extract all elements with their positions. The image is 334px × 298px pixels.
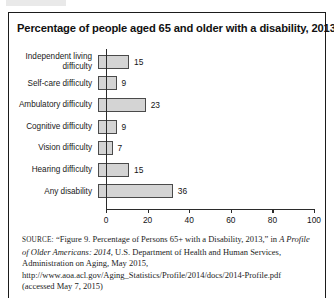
bar-zone: 23 (98, 94, 327, 116)
bar-rows: Independent living difficulty 15 Self-ca… (9, 51, 327, 202)
bar-value-vision-difficulty: 7 (117, 143, 122, 153)
table-row: Any disability 36 (9, 181, 327, 203)
table-row: Hearing difficulty 15 (9, 159, 327, 181)
category-label-hearing-difficulty: Hearing difficulty (9, 165, 98, 174)
bar-value-cognitive-difficulty: 9 (122, 122, 127, 132)
scan-artifact (6, 0, 66, 6)
category-label-any-disability: Any disability (9, 187, 98, 196)
x-tick-40 (189, 209, 190, 213)
table-row: Self-care difficulty 9 (9, 73, 327, 95)
bar-zone: 9 (98, 116, 327, 138)
bar-independent-living-difficulty (98, 55, 129, 69)
category-label-vision-difficulty: Vision difficulty (9, 143, 98, 152)
x-tick-80 (272, 209, 273, 213)
table-row: Ambulatory difficulty 23 (9, 94, 327, 116)
x-tick-60 (231, 209, 232, 213)
x-tick-label-80: 80 (268, 215, 277, 225)
source-text-part1: “Figure 9. Percentage of Persons 65+ wit… (54, 234, 279, 244)
category-label-self-care-difficulty: Self-care difficulty (9, 79, 98, 88)
table-row: Vision difficulty 7 (9, 137, 327, 159)
table-row: Independent living difficulty 15 (9, 51, 327, 73)
x-tick-0 (106, 209, 107, 213)
bar-zone: 36 (98, 181, 327, 203)
bar-value-any-disability: 36 (178, 186, 187, 196)
category-label-independent-living-difficulty: Independent living difficulty (9, 52, 98, 71)
x-tick-label-40: 40 (185, 215, 194, 225)
bar-zone: 15 (98, 159, 327, 181)
chart-plot-area: Independent living difficulty 15 Self-ca… (9, 49, 327, 229)
x-tick-label-0: 0 (104, 215, 109, 225)
y-axis-line (106, 49, 107, 209)
bar-value-independent-living-difficulty: 15 (134, 57, 143, 67)
source-note: SOURCE: “Figure 9. Percentage of Persons… (22, 234, 314, 293)
page-title: Percentage of people aged 65 and older w… (17, 22, 321, 34)
x-axis-line (106, 209, 315, 210)
bar-zone: 9 (98, 73, 327, 95)
source-label: SOURCE: (22, 236, 54, 244)
bar-value-self-care-difficulty: 9 (122, 78, 127, 88)
category-label-ambulatory-difficulty: Ambulatory difficulty (9, 100, 98, 109)
bar-any-disability (98, 184, 173, 198)
x-tick-label-100: 100 (307, 215, 321, 225)
bar-hearing-difficulty (98, 163, 129, 177)
category-label-cognitive-difficulty: Cognitive difficulty (9, 122, 98, 131)
x-tick-20 (148, 209, 149, 213)
table-row: Cognitive difficulty 9 (9, 116, 327, 138)
x-tick-label-60: 60 (226, 215, 235, 225)
x-tick-100 (314, 209, 315, 213)
bar-value-hearing-difficulty: 15 (134, 165, 143, 175)
bar-value-ambulatory-difficulty: 23 (151, 100, 160, 110)
bar-zone: 7 (98, 137, 327, 159)
bar-zone: 15 (98, 51, 327, 73)
x-tick-label-20: 20 (143, 215, 152, 225)
